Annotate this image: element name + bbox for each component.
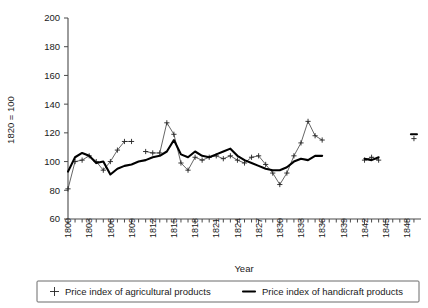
data-point-marker-agricultural [313, 133, 318, 138]
y-axis-title: 1820 = 100 [5, 96, 16, 144]
data-series-layer [65, 119, 417, 192]
data-point-marker-agricultural [221, 156, 226, 161]
x-tick-label: 1842 [360, 218, 370, 238]
x-tick-label: 1827 [254, 218, 264, 238]
legend-item-agricultural: Price index of agricultural products [50, 286, 211, 297]
y-tick-label: 160 [44, 70, 60, 81]
y-axis-title-label: 1820 = 100 [5, 96, 16, 144]
data-point-marker-agricultural [150, 150, 155, 155]
x-tick-label: 1830 [275, 218, 285, 238]
y-tick-label: 180 [44, 41, 60, 52]
data-point-marker-agricultural [200, 158, 205, 163]
x-tick-label: 1815 [169, 218, 179, 238]
data-point-marker-agricultural [305, 119, 310, 124]
x-tick-label: 1821 [211, 218, 221, 238]
data-point-marker-agricultural [277, 182, 282, 187]
data-point-marker-agricultural [143, 149, 148, 154]
data-point-marker-agricultural [235, 158, 240, 163]
x-tick-label: 1812 [148, 218, 158, 238]
x-axis-title-label: Year [234, 263, 253, 274]
y-tick-label: 140 [44, 99, 60, 110]
data-point-marker-agricultural [129, 139, 134, 144]
series-line-agricultural [68, 141, 132, 188]
data-point-marker-agricultural [291, 153, 296, 158]
legend-item-label: Price index of agricultural products [65, 286, 211, 297]
data-point-marker-agricultural [320, 137, 325, 142]
data-point-marker-agricultural [80, 158, 85, 163]
x-tick-label: 1818 [190, 218, 200, 238]
x-tick-label: 1824 [233, 218, 243, 238]
y-tick-label: 60 [49, 213, 60, 224]
data-point-marker-agricultural [171, 132, 176, 137]
x-tick-label: 1806 [106, 218, 116, 238]
y-axis-ticks: 6080100120140160180200 [44, 12, 68, 224]
legend-item-handicraft: Price index of handicraft products [243, 286, 403, 297]
x-tick-label: 1839 [339, 218, 349, 238]
x-tick-label: 1803 [84, 218, 94, 238]
data-point-marker-agricultural [164, 120, 169, 125]
data-point-marker-agricultural [284, 170, 289, 175]
chart-page: 1820 = 100 6080100120140160180200 180018… [0, 0, 428, 308]
x-tick-label: 1848 [402, 218, 412, 238]
x-tick-label: 1833 [296, 218, 306, 238]
price-index-line-chart: 1820 = 100 6080100120140160180200 180018… [0, 0, 428, 308]
x-tick-label: 1800 [63, 218, 73, 238]
x-axis-ticks: 1800180318061809181218151818182118241827… [63, 218, 414, 238]
data-point-marker-agricultural [298, 140, 303, 145]
y-tick-label: 80 [49, 185, 60, 196]
y-tick-label: 200 [44, 12, 60, 23]
y-tick-label: 100 [44, 156, 60, 167]
x-tick-label: 1845 [381, 218, 391, 238]
chart-legend: Price index of agricultural products Pri… [37, 281, 419, 302]
x-tick-label: 1809 [127, 218, 137, 238]
y-tick-label: 120 [44, 127, 60, 138]
data-point-marker-agricultural [228, 153, 233, 158]
legend-item-label: Price index of handicraft products [262, 286, 403, 297]
x-tick-label: 1836 [317, 218, 327, 238]
data-point-marker-agricultural [411, 136, 416, 141]
data-point-marker-agricultural [192, 155, 197, 160]
